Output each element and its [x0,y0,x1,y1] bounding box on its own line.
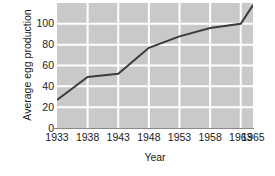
x-tick-1958: 1958 [198,131,221,144]
y-tick-40: 40 [26,81,54,92]
horizontal-gridlines [57,24,253,107]
y-tick-100: 100 [26,18,54,29]
x-tick-1943: 1943 [107,131,130,144]
x-tick-1948: 1948 [137,131,160,144]
x-tick-1933: 1933 [45,131,68,144]
x-axis-title: Year [57,151,253,164]
y-tick-20: 20 [26,102,54,113]
chart-figure: Average egg production 020406080100 1933… [0,0,275,176]
x-tick-1953: 1953 [168,131,191,144]
plot-area [57,3,253,128]
chart-canvas [57,3,253,128]
x-axis-baseline [53,128,254,129]
x-tick-1965: 1965 [241,131,264,144]
y-axis-tick-labels: 020406080100 [26,0,54,176]
x-axis-tick-labels: 19331938194319481953195819631965 [0,131,275,145]
y-tick-60: 60 [26,60,54,71]
x-tick-1938: 1938 [76,131,99,144]
y-tick-80: 80 [26,39,54,50]
